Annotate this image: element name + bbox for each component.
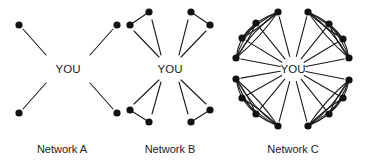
peer-tie	[236, 79, 278, 126]
contact-node	[252, 19, 259, 26]
contact-node	[126, 21, 133, 28]
tie-to-you	[179, 82, 188, 114]
contact-node	[113, 109, 120, 116]
you-label: YOU	[56, 63, 81, 75]
you-label: YOU	[281, 63, 306, 75]
tie-to-you	[306, 72, 344, 80]
contact-node	[15, 109, 22, 116]
contact-node	[238, 34, 245, 41]
tie-to-you	[90, 29, 113, 55]
contact-node	[187, 118, 194, 125]
tie-to-you	[301, 28, 326, 59]
contact-node	[145, 8, 152, 15]
peer-tie	[308, 12, 349, 58]
tie-to-you	[241, 59, 280, 67]
contact-node	[206, 21, 213, 28]
network-label: Network A	[37, 143, 88, 155]
contact-node	[304, 8, 311, 15]
contact-node	[187, 8, 194, 15]
tie-to-you	[23, 83, 46, 109]
tie-to-you	[181, 80, 206, 104]
tie-to-you	[134, 80, 159, 104]
tie-to-you	[241, 71, 280, 78]
tie-to-you	[304, 42, 339, 63]
contact-node	[232, 54, 239, 61]
tie-to-you	[279, 82, 289, 122]
contact-node	[325, 20, 332, 27]
tie-to-you	[246, 75, 281, 95]
tie-to-you	[90, 83, 113, 109]
contact-node	[345, 54, 352, 61]
tie-to-you	[296, 17, 306, 57]
tie-to-you	[304, 76, 338, 96]
peer-tie	[236, 79, 278, 126]
tie-to-you	[179, 20, 188, 55]
contact-node	[145, 118, 152, 125]
tie-to-you	[152, 82, 161, 114]
contact-node	[206, 106, 213, 113]
contact-node	[274, 8, 281, 15]
peer-tie	[308, 80, 349, 126]
tie-to-you	[181, 31, 206, 57]
contact-node	[339, 94, 346, 101]
network-c: YOUNetwork C	[232, 8, 352, 155]
contact-node	[339, 35, 346, 42]
contact-node	[113, 21, 120, 28]
peer-tie	[308, 12, 349, 58]
contact-node	[238, 94, 245, 101]
contact-node	[15, 21, 22, 28]
network-label: Network C	[267, 143, 318, 155]
tie-to-you	[279, 17, 289, 57]
tie-to-you	[301, 79, 326, 110]
contact-node	[252, 110, 259, 117]
network-comparison-diagram: YOUNetwork A YOUNetwork B YOUNetwork C	[0, 0, 367, 163]
contact-node	[345, 76, 352, 83]
you-label: YOU	[158, 63, 183, 75]
contact-node	[274, 122, 281, 129]
contact-node	[325, 110, 332, 117]
tie-to-you	[152, 20, 161, 55]
peer-tie	[308, 80, 349, 126]
tie-to-you	[296, 82, 306, 122]
contact-node	[304, 122, 311, 129]
network-a: YOUNetwork A	[15, 21, 120, 155]
tie-to-you	[134, 31, 159, 57]
tie-to-you	[23, 29, 46, 55]
network-label: Network B	[145, 143, 196, 155]
tie-to-you	[306, 59, 344, 67]
contact-node	[232, 75, 239, 82]
network-b: YOUNetwork B	[126, 8, 213, 155]
contact-node	[126, 106, 133, 113]
